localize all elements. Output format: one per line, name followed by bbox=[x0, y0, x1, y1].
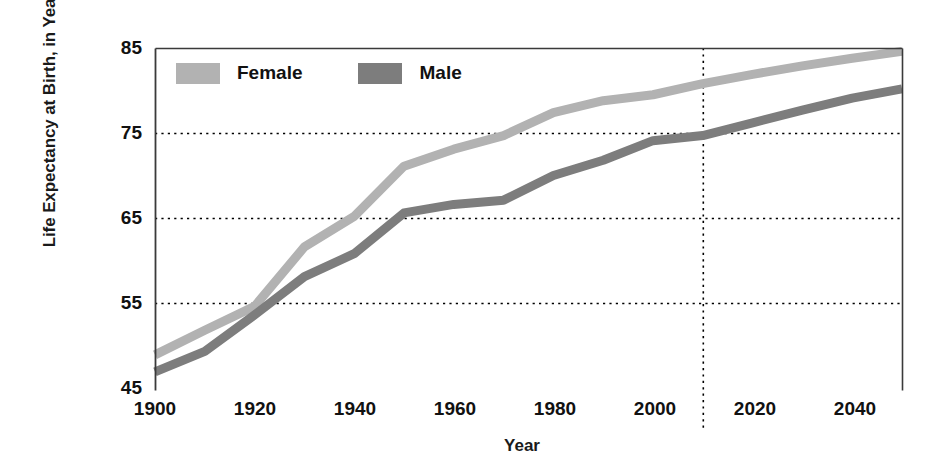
legend-item-male: Male bbox=[358, 62, 461, 84]
data-series bbox=[155, 51, 902, 371]
gridlines bbox=[155, 134, 902, 304]
plot-area bbox=[0, 0, 944, 476]
line-male bbox=[155, 89, 902, 372]
plot-frame bbox=[156, 49, 903, 391]
legend-swatch-male-icon bbox=[358, 63, 402, 84]
legend-swatch-female-icon bbox=[176, 63, 220, 84]
legend-item-female: Female bbox=[176, 62, 302, 84]
legend: Female Male bbox=[176, 62, 462, 84]
legend-label-female: Female bbox=[237, 62, 302, 84]
legend-label-male: Male bbox=[419, 62, 461, 84]
chart-root: Life Expectancy at Birth, in Years 85 75… bbox=[0, 0, 944, 476]
